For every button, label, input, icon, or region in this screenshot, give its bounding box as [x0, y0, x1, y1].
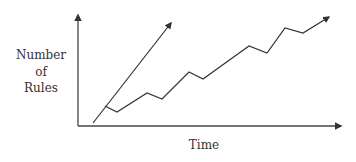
y-axis-label-line-2: of [10, 64, 72, 81]
y-axis-label-line-1: Number [10, 47, 72, 64]
x-axis-label: Time [186, 138, 222, 152]
y-axis-label: Number of Rules [10, 47, 72, 97]
rules-over-time-diagram: Number of Rules Time [0, 0, 356, 162]
y-axis-label-line-3: Rules [10, 80, 72, 97]
straight-growth-line [93, 23, 171, 123]
